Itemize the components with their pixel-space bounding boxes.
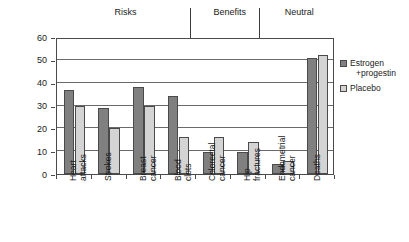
x-axis-label-line1: Blood <box>173 159 183 181</box>
x-axis-label-breast-cancer: Breastcancer <box>139 155 158 181</box>
x-tick-mark-1 <box>91 175 92 179</box>
x-tick-mark-6 <box>265 175 266 179</box>
legend-label-estrogen-line2: +progestin <box>350 68 396 78</box>
y-tick-label-60: 60 <box>25 34 47 43</box>
legend-label-placebo-line1: Placebo <box>350 83 381 93</box>
x-tick-mark-2 <box>126 175 127 179</box>
legend-swatch-icon-estrogen <box>340 60 347 67</box>
x-tick-mark-3 <box>160 175 161 179</box>
legend-item-placebo[interactable]: Placebo <box>340 83 409 93</box>
x-axis-label-line2: clots <box>182 164 192 181</box>
x-axis-label-strokes: Strokes <box>104 152 114 181</box>
x-tick-mark-5 <box>230 175 231 179</box>
legend-label-estrogen: Estrogen +progestin <box>350 58 396 78</box>
x-tick-mark-7 <box>299 175 300 179</box>
legend: Estrogen +progestin Placebo <box>340 58 409 98</box>
y-tick-label-10: 10 <box>25 148 47 157</box>
legend-swatch-icon-placebo <box>340 85 347 92</box>
legend-label-placebo: Placebo <box>350 83 381 93</box>
x-axis-label-blood-clots: Bloodclots <box>174 159 193 181</box>
y-tick-mark-40 <box>51 84 55 85</box>
y-tick-label-20: 20 <box>25 125 47 134</box>
y-tick-mark-0 <box>51 175 55 176</box>
x-axis-label-line2: cancer <box>147 155 157 181</box>
group-label-risks: Risks <box>56 7 195 18</box>
x-tick-mark-4 <box>195 175 196 179</box>
legend-label-estrogen-line1: Estrogen <box>350 58 384 68</box>
x-axis-label-line2: attacks <box>78 154 88 181</box>
x-axis-label-deaths: Deaths <box>313 154 323 181</box>
x-tick-mark-end <box>334 175 335 179</box>
y-tick-mark-60 <box>51 38 55 39</box>
x-axis-label-line2: cancer <box>286 155 296 181</box>
x-axis-label-hip-fractures: Hipfractures <box>243 148 262 181</box>
group-header-band: RisksBenefitsNeutral <box>56 6 334 26</box>
x-axis-label-line1: Breast <box>138 156 148 181</box>
y-tick-label-30: 30 <box>25 102 47 111</box>
legend-item-estrogen-progestin[interactable]: Estrogen +progestin <box>340 58 409 78</box>
bar-chart: RisksBenefitsNeutral Number of cases per… <box>0 0 409 242</box>
x-axis-label-line2: cancer <box>217 155 227 181</box>
x-axis-label-endometrial-cancer: Endometrialcancer <box>278 136 297 181</box>
y-tick-mark-30 <box>51 107 55 108</box>
group-label-benefits: Benefits <box>195 7 265 18</box>
x-axis-label-line1: Deaths <box>312 154 322 181</box>
x-axis-label-line2: fractures <box>252 148 262 181</box>
y-tick-label-40: 40 <box>25 79 47 88</box>
y-tick-mark-50 <box>51 61 55 62</box>
group-label-neutral: Neutral <box>265 7 335 18</box>
x-axis-label-colorectal-cancer: Colorectalcancer <box>208 143 227 181</box>
y-tick-mark-20 <box>51 129 55 130</box>
y-tick-mark-10 <box>51 152 55 153</box>
y-tick-label-50: 50 <box>25 56 47 65</box>
x-tick-mark-0 <box>56 175 57 179</box>
y-tick-label-0: 0 <box>25 171 47 180</box>
x-axis-label-heart-attacks: Heartattacks <box>69 154 88 181</box>
x-axis-label-line1: Strokes <box>103 152 113 181</box>
x-axis-label-line1: Endometrial <box>277 136 287 181</box>
